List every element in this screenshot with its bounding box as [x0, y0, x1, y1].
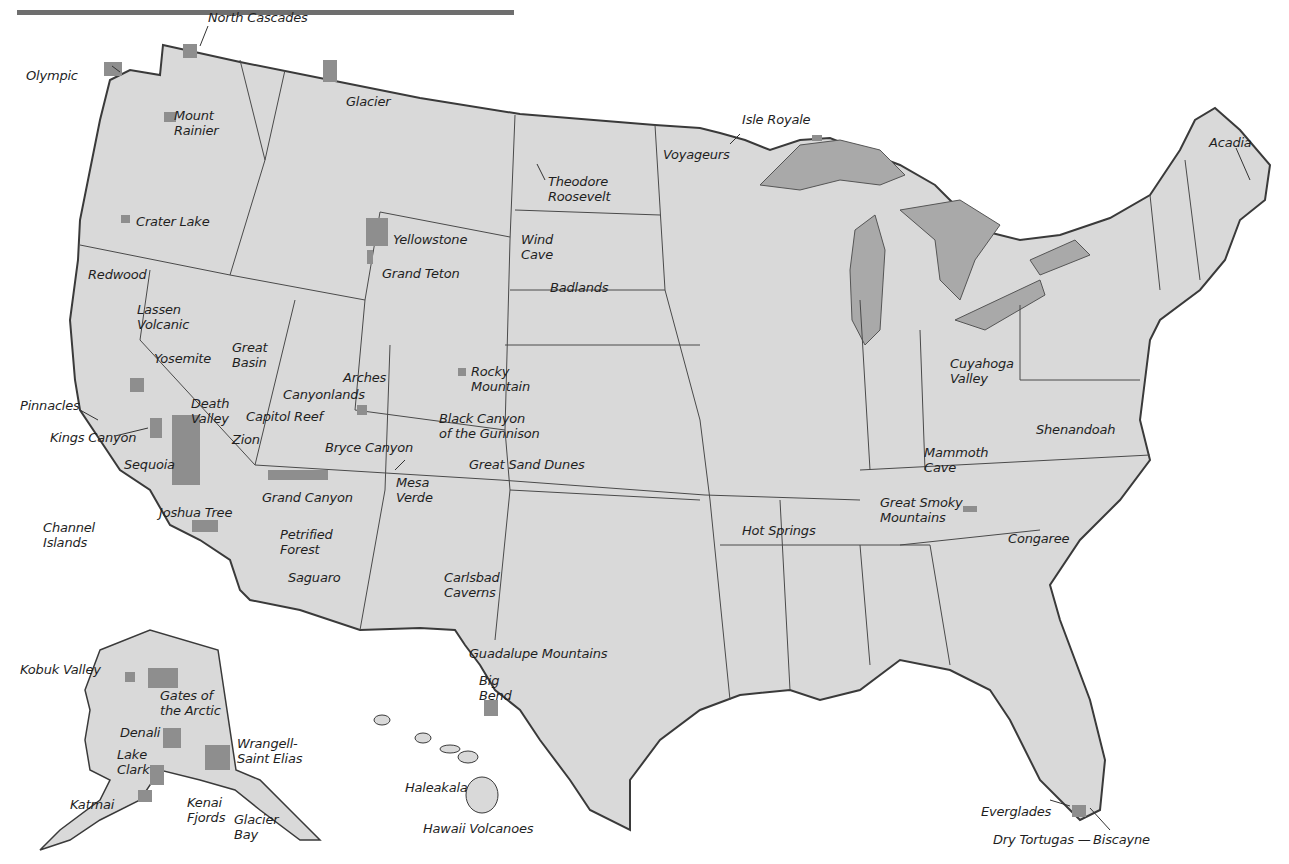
park-label-big-bend: Big Bend [479, 673, 512, 703]
park-label-cuyahoga-valley: Cuyahoga Valley [950, 356, 1014, 386]
park-label-hot-springs: Hot Springs [742, 523, 815, 538]
park-label-yellowstone: Yellowstone [393, 232, 467, 247]
lake-michigan [850, 215, 885, 345]
park-label-north-cascades: North Cascades [208, 10, 308, 25]
park-label-shenandoah: Shenandoah [1036, 422, 1115, 437]
park-label-rocky-mountain: Rocky Mountain [471, 364, 530, 394]
park-label-kobuk-valley: Kobuk Valley [20, 662, 101, 677]
park-label-mesa-verde: Mesa Verde [396, 475, 433, 505]
park-label-grand-teton: Grand Teton [382, 266, 459, 281]
park-label-zion: Zion [232, 432, 260, 447]
park-label-badlands: Badlands [550, 280, 608, 295]
park-label-wind-cave: Wind Cave [521, 232, 553, 262]
park-label-saguaro: Saguaro [288, 570, 341, 585]
park-label-sequoia: Sequoia [124, 457, 175, 472]
park-label-carlsbad-caverns: Carlsbad Caverns [444, 570, 500, 600]
park-label-arches: Arches [343, 370, 386, 385]
park-label-glacier: Glacier [346, 94, 390, 109]
park-label-mount-rainier: Mount Rainier [174, 108, 218, 138]
park-label-wrangell-saint-elias: Wrangell- Saint Elias [237, 736, 302, 766]
park-label-lake-clark: Lake Clark [117, 747, 150, 777]
park-label-petrified-forest: Petrified Forest [280, 527, 333, 557]
park-label-theodore-roosevelt: Theodore Roosevelt [548, 174, 610, 204]
park-label-lassen-volcanic: Lassen Volcanic [137, 302, 189, 332]
park-label-guadalupe-mountains: Guadalupe Mountains [469, 646, 607, 661]
park-label-grand-canyon: Grand Canyon [262, 490, 353, 505]
park-label-mammoth-cave: Mammoth Cave [924, 445, 988, 475]
park-label-bryce-canyon: Bryce Canyon [325, 440, 413, 455]
park-label-great-sand-dunes: Great Sand Dunes [469, 457, 585, 472]
park-label-canyonlands: Canyonlands [283, 387, 365, 402]
park-label-denali: Denali [120, 725, 160, 740]
park-label-katmai: Katmai [70, 797, 114, 812]
park-label-dry-tortugas: Dry Tortugas — [993, 832, 1090, 847]
park-label-voyageurs: Voyageurs [663, 147, 730, 162]
park-label-channel-islands: Channel Islands [43, 520, 95, 550]
park-label-olympic: Olympic [26, 68, 78, 83]
park-label-joshua-tree: Joshua Tree [159, 505, 232, 520]
park-label-yosemite: Yosemite [154, 351, 211, 366]
park-label-great-basin: Great Basin [232, 340, 267, 370]
park-label-congaree: Congaree [1008, 531, 1069, 546]
park-label-capitol-reef: Capitol Reef [246, 409, 323, 424]
park-label-black-canyon: Black Canyon of the Gunnison [439, 411, 540, 441]
national-parks-map: North Cascades Olympic Glacier Mount Rai… [0, 0, 1289, 864]
park-label-isle-royale: Isle Royale [742, 112, 810, 127]
park-label-death-valley: Death Valley [191, 396, 229, 426]
park-label-biscayne: Biscayne [1093, 832, 1150, 847]
park-label-kenai-fjords: Kenai Fjords [187, 795, 225, 825]
park-label-crater-lake: Crater Lake [136, 214, 210, 229]
park-label-redwood: Redwood [88, 267, 147, 282]
park-label-kings-canyon: Kings Canyon [50, 430, 136, 445]
park-label-hawaii-volcanoes: Hawaii Volcanoes [423, 821, 533, 836]
park-label-everglades: Everglades [981, 804, 1051, 819]
hawaii-islands [374, 715, 498, 813]
park-label-haleakala: Haleakala [405, 780, 468, 795]
park-label-great-smoky-mountains: Great Smoky Mountains [880, 495, 963, 525]
park-label-gates-of-the-arctic: Gates of the Arctic [160, 688, 221, 718]
park-label-acadia: Acadia [1209, 135, 1252, 150]
park-label-glacier-bay: Glacier Bay [234, 812, 278, 842]
park-label-pinnacles: Pinnacles [20, 398, 80, 413]
